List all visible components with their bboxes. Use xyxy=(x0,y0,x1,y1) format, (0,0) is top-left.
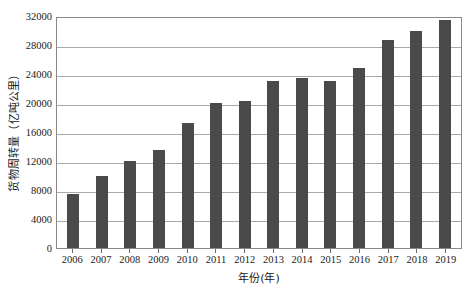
x-axis-tick-labels: 2006200720082009201020112012201320142015… xyxy=(56,253,462,269)
bar[interactable] xyxy=(410,31,422,249)
x-tick-label: 2013 xyxy=(259,253,288,269)
bar-slot xyxy=(173,18,202,248)
x-tick-label: 2009 xyxy=(144,253,173,269)
x-tick-label: 2012 xyxy=(230,253,259,269)
y-tick-label: 16000 xyxy=(14,128,52,138)
y-tick-label: 32000 xyxy=(14,12,52,22)
y-tick-label: 0 xyxy=(14,244,52,254)
plot-area xyxy=(56,17,462,249)
bar-slot xyxy=(230,18,259,248)
bar[interactable] xyxy=(239,101,251,248)
x-tick-label: 2018 xyxy=(403,253,432,269)
x-tick-label: 2008 xyxy=(115,253,144,269)
bar[interactable] xyxy=(153,150,165,248)
y-tick-label: 24000 xyxy=(14,70,52,80)
x-tick-label: 2014 xyxy=(288,253,317,269)
bar[interactable] xyxy=(267,81,279,248)
x-tick-label: 2017 xyxy=(374,253,403,269)
bars-layer xyxy=(57,18,461,248)
bar-slot xyxy=(288,18,317,248)
bar-slot xyxy=(345,18,374,248)
x-axis-title: 年份(年) xyxy=(56,269,462,285)
bar[interactable] xyxy=(124,161,136,248)
x-tick-label: 2011 xyxy=(202,253,231,269)
y-tick-label: 12000 xyxy=(14,157,52,167)
bar-slot xyxy=(202,18,231,248)
bar-slot xyxy=(88,18,117,248)
bar[interactable] xyxy=(439,20,451,248)
bar[interactable] xyxy=(296,78,308,248)
bar-slot xyxy=(373,18,402,248)
bar[interactable] xyxy=(67,194,79,248)
y-tick-label: 4000 xyxy=(14,215,52,225)
bar-slot xyxy=(316,18,345,248)
y-tick-label: 8000 xyxy=(14,186,52,196)
x-tick-label: 2019 xyxy=(431,253,460,269)
x-tick-label: 2006 xyxy=(58,253,87,269)
y-axis-tick-labels: 040008000120001600020000240002800032000 xyxy=(14,17,52,249)
y-tick-label: 20000 xyxy=(14,99,52,109)
bar-slot xyxy=(402,18,431,248)
x-tick-label: 2015 xyxy=(316,253,345,269)
bar-slot xyxy=(116,18,145,248)
bar-slot xyxy=(431,18,460,248)
x-tick-label: 2016 xyxy=(345,253,374,269)
bar-slot xyxy=(59,18,88,248)
bar-slot xyxy=(145,18,174,248)
x-tick-label: 2007 xyxy=(87,253,116,269)
bar[interactable] xyxy=(353,68,365,248)
bar[interactable] xyxy=(324,81,336,248)
bar[interactable] xyxy=(210,103,222,248)
bar[interactable] xyxy=(182,123,194,248)
x-tick-label: 2010 xyxy=(173,253,202,269)
bar[interactable] xyxy=(96,176,108,248)
bar-chart: 货物周转量（亿吨公里） 0400080001200016000200002400… xyxy=(0,0,471,288)
bar[interactable] xyxy=(382,40,394,248)
y-tick-label: 28000 xyxy=(14,41,52,51)
bar-slot xyxy=(259,18,288,248)
